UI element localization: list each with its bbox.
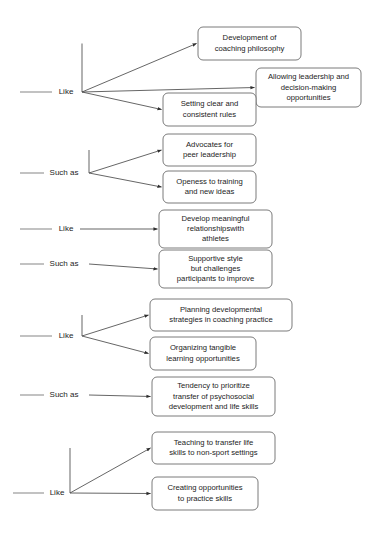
node-allowing-leadership[interactable]: Allowing leadership anddecision-makingop… xyxy=(256,68,361,107)
node-advocates-peer-leadership-line-1: Advocates for xyxy=(186,140,233,149)
node-tendency-to-prioritize-line-3: development and life skills xyxy=(169,402,259,411)
node-teaching-to-transfer-life-skills[interactable]: Teaching to transfer lifeskills to non-s… xyxy=(152,432,275,464)
connector-arrow-like-1-1 xyxy=(82,44,197,93)
node-advocates-peer-leadership-line-2: peer leadership xyxy=(183,150,236,159)
node-creating-opportunities-line-1: Creating opportunities xyxy=(167,483,242,492)
node-develop-meaningful-relationships[interactable]: Develop meaningfulrelationshipswithathle… xyxy=(159,210,272,248)
connector-arrow-like-7-1 xyxy=(70,448,151,493)
relation-label-like-1: Like xyxy=(59,87,74,96)
node-openess-to-training[interactable]: Openess to trainingand new ideas xyxy=(163,171,256,203)
connector-arrow-such-as-2-1 xyxy=(89,150,162,173)
node-supportive-style-line-3: participants to improve xyxy=(177,274,254,283)
node-planning-developmental-strategies-line-2: strategies in coaching practice xyxy=(169,315,272,324)
node-supportive-style-line-2: but challenges xyxy=(191,264,241,273)
node-development-of-coaching-philosophy-line-1: Development of xyxy=(223,33,278,42)
node-allowing-leadership-line-3: opportunities xyxy=(286,93,330,102)
node-development-of-coaching-philosophy-line-2: coaching philosophy xyxy=(215,44,285,53)
node-organizing-tangible-learning-line-1: Organizing tangible xyxy=(170,343,236,352)
node-develop-meaningful-relationships-line-1: Develop meaningful xyxy=(182,214,250,223)
node-openess-to-training-line-2: and new ideas xyxy=(185,187,235,196)
connector-arrow-like-7-2 xyxy=(70,493,151,494)
relation-label-like-5: Like xyxy=(59,331,74,340)
relation-label-layer: LikeSuch asLikeSuch asLikeSuch asLike xyxy=(50,87,79,497)
connector-arrow-like-1-2 xyxy=(82,88,255,93)
node-supportive-style[interactable]: Supportive stylebut challengesparticipan… xyxy=(159,250,272,288)
node-tendency-to-prioritize[interactable]: Tendency to prioritizetransfer of psycho… xyxy=(152,377,275,416)
node-organizing-tangible-learning[interactable]: Organizing tangiblelearning opportunitie… xyxy=(150,337,256,370)
node-tendency-to-prioritize-line-1: Tendency to prioritize xyxy=(177,381,250,390)
connector-arrow-such-as-2-2 xyxy=(89,173,162,187)
connector-arrow-such-as-6-1 xyxy=(89,395,151,397)
connector-arrow-like-5-2 xyxy=(82,336,149,354)
node-openess-to-training-line-1: Openess to training xyxy=(176,177,243,186)
diagram-canvas: Development ofcoaching philosophyAllowin… xyxy=(0,0,378,534)
node-setting-clear-rules-line-1: Setting clear and xyxy=(181,99,239,108)
node-teaching-to-transfer-life-skills-line-1: Teaching to transfer life xyxy=(174,438,253,447)
node-allowing-leadership-line-2: decision-making xyxy=(281,83,337,92)
relation-label-like-3: Like xyxy=(59,224,74,233)
relation-label-such-as-6: Such as xyxy=(50,390,79,399)
node-creating-opportunities[interactable]: Creating opportunitiesto practice skills xyxy=(152,477,258,510)
node-layer: Development ofcoaching philosophyAllowin… xyxy=(150,27,361,510)
node-develop-meaningful-relationships-line-3: athletes xyxy=(202,234,229,243)
relation-label-like-7: Like xyxy=(50,488,65,497)
node-tendency-to-prioritize-line-2: transfer of psychosocial xyxy=(173,392,254,401)
node-organizing-tangible-learning-line-2: learning opportunities xyxy=(166,354,240,363)
node-teaching-to-transfer-life-skills-line-2: skills to non-sport settings xyxy=(169,448,258,457)
node-development-of-coaching-philosophy[interactable]: Development ofcoaching philosophy xyxy=(198,27,301,60)
node-setting-clear-rules-line-2: consistent rules xyxy=(183,110,237,119)
relation-label-such-as-2: Such as xyxy=(50,168,79,177)
node-planning-developmental-strategies-line-1: Planning developmental xyxy=(180,305,262,314)
node-supportive-style-line-1: Supportive style xyxy=(188,254,243,263)
node-creating-opportunities-line-2: to practice skills xyxy=(178,494,232,503)
connector-arrow-like-5-1 xyxy=(82,315,149,336)
node-planning-developmental-strategies[interactable]: Planning developmentalstrategies in coac… xyxy=(150,299,292,331)
node-setting-clear-rules[interactable]: Setting clear andconsistent rules xyxy=(163,93,256,126)
node-develop-meaningful-relationships-line-2: relationshipswith xyxy=(187,224,244,233)
relation-label-such-as-4: Such as xyxy=(50,259,79,268)
diagram-svg: Development ofcoaching philosophyAllowin… xyxy=(0,0,378,534)
node-allowing-leadership-line-1: Allowing leadership and xyxy=(268,72,349,81)
connector-arrow-like-1-3 xyxy=(82,92,162,110)
connector-arrow-such-as-4-1 xyxy=(89,264,158,269)
node-advocates-peer-leadership[interactable]: Advocates forpeer leadership xyxy=(163,134,256,166)
